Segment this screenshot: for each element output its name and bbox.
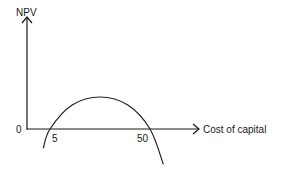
origin-label: 0 xyxy=(16,124,22,135)
x-axis-label: Cost of capital xyxy=(203,124,266,135)
npv-curve xyxy=(43,97,163,164)
npv-diagram: NPV Cost of capital 0 5 50 xyxy=(0,0,284,174)
x-tick-label-50: 50 xyxy=(137,133,149,144)
x-tick-label-5: 5 xyxy=(52,133,58,144)
y-axis-label: NPV xyxy=(16,7,37,18)
